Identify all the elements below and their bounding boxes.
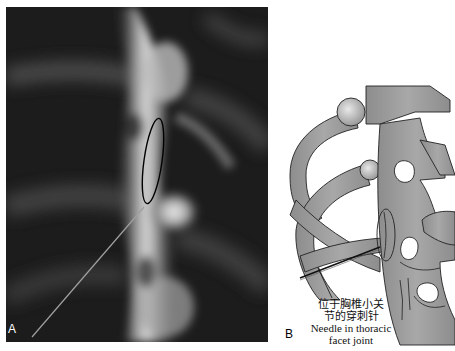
xray-panel-a — [6, 7, 268, 342]
needle-annotation: 位于胸椎小关 节的穿刺针 Needle in thoracic facet jo… — [296, 298, 406, 346]
annotation-zh-line-2: 节的穿刺针 — [296, 310, 406, 322]
panel-label-b: B — [285, 327, 293, 341]
panel-label-a: A — [8, 322, 16, 336]
xray-image — [6, 7, 268, 342]
annotation-en-line-2: facet joint — [296, 334, 406, 346]
annotation-en-line-1: Needle in thoracic — [296, 322, 406, 334]
annotation-zh-line-1: 位于胸椎小关 — [296, 298, 406, 310]
